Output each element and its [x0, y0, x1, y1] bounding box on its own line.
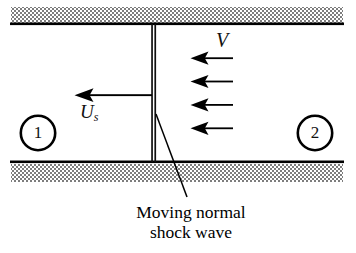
shock-arrow-shaft [84, 94, 152, 96]
zone-2-label: 2 [298, 124, 332, 141]
incoming-flow-arrows [191, 52, 234, 135]
top-wall-hatch [11, 7, 343, 23]
shock-wave-diagram: Us V 1 2 Moving normal shock wave [0, 0, 356, 253]
flow-arrow-1 [191, 52, 234, 65]
moving-normal-shock-wave [151, 24, 156, 162]
shock-wave-caption: Moving normal shock wave [98, 202, 284, 242]
shock-line-left [151, 24, 153, 162]
zone-1-label: 1 [21, 124, 55, 141]
bottom-wall-line [10, 161, 344, 164]
top-wall-line [10, 23, 344, 26]
caption-line-2: shock wave [98, 222, 284, 242]
top-duct-wall [10, 7, 344, 25]
shock-line-right [154, 24, 156, 162]
flow-arrow-4 [191, 122, 234, 135]
shock-speed-subscript: s [94, 110, 99, 124]
shock-speed-label: Us [80, 102, 98, 123]
caption-line-1: Moving normal [98, 202, 284, 222]
caption-leader-line [156, 114, 187, 197]
shock-speed-symbol: U [80, 101, 94, 122]
flow-arrow-3 [191, 98, 234, 111]
flow-arrow-2 [191, 75, 234, 88]
flow-velocity-label: V [216, 30, 228, 50]
bottom-wall-hatch [11, 164, 343, 182]
